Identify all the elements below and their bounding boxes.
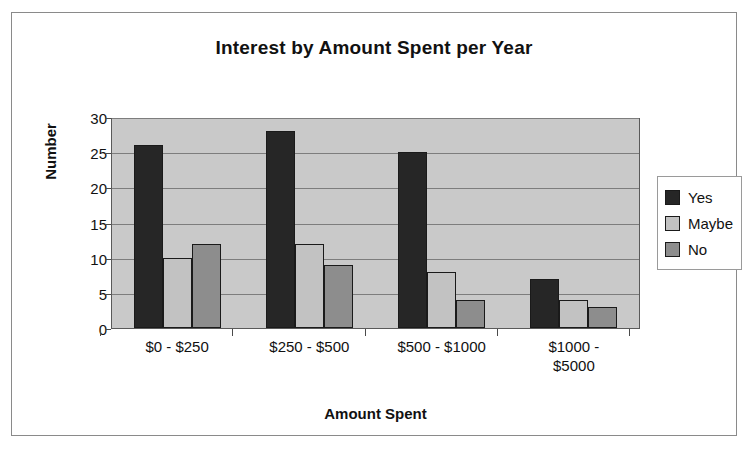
x-tick-mark: [232, 329, 233, 336]
legend-item-yes[interactable]: Yes: [665, 184, 733, 210]
legend-label: No: [688, 241, 707, 258]
bar-groups: [112, 119, 639, 328]
x-tick-label: $500 - $1000: [376, 337, 508, 375]
bar-no[interactable]: [324, 265, 353, 328]
bar-group: [507, 119, 639, 328]
x-tick-mark: [365, 329, 366, 336]
x-tick-label: $0 - $250: [111, 337, 243, 375]
bar-no[interactable]: [588, 307, 617, 328]
bar-maybe[interactable]: [559, 300, 588, 328]
bar-yes[interactable]: [530, 279, 559, 328]
x-tick-label: $250 - $500: [243, 337, 375, 375]
bar-maybe[interactable]: [295, 244, 324, 328]
plot-area: [111, 118, 640, 329]
x-axis-title: Amount Spent: [111, 405, 640, 422]
bar-maybe[interactable]: [427, 272, 456, 328]
x-tick-mark: [100, 329, 101, 336]
chart-title: Interest by Amount Spent per Year: [12, 37, 736, 59]
legend-label: Maybe: [688, 215, 733, 232]
x-tick-label: $1000 -$5000: [508, 337, 640, 375]
legend-item-maybe[interactable]: Maybe: [665, 210, 733, 236]
x-tick-mark: [629, 329, 630, 336]
legend-swatch-icon: [665, 216, 680, 231]
bar-yes[interactable]: [266, 131, 295, 328]
x-axis-tick-labels: $0 - $250$250 - $500$500 - $1000$1000 -$…: [111, 337, 640, 375]
legend-item-no[interactable]: No: [665, 236, 733, 262]
bar-no[interactable]: [192, 244, 221, 328]
bar-yes[interactable]: [398, 152, 427, 328]
bar-group: [376, 119, 508, 328]
bar-group: [112, 119, 244, 328]
bar-yes[interactable]: [134, 145, 163, 328]
y-axis-tick-marks: [12, 118, 112, 329]
legend-swatch-icon: [665, 190, 680, 205]
bar-group: [244, 119, 376, 328]
legend-label: Yes: [688, 189, 712, 206]
legend: YesMaybeNo: [657, 176, 742, 270]
y-tick-mark: [105, 329, 111, 330]
chart-card: Interest by Amount Spent per Year Number…: [11, 12, 737, 436]
bar-maybe[interactable]: [163, 258, 192, 328]
legend-swatch-icon: [665, 242, 680, 257]
bar-no[interactable]: [456, 300, 485, 328]
x-tick-mark: [497, 329, 498, 336]
